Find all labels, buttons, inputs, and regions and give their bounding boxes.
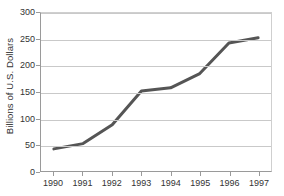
y-tick-mark xyxy=(36,145,40,146)
y-tick-mark xyxy=(36,39,40,40)
x-tick-label: 1992 xyxy=(102,178,122,188)
x-tick-label: 1996 xyxy=(220,178,240,188)
y-tick-mark xyxy=(36,119,40,120)
x-tick-mark xyxy=(141,172,142,176)
x-tick-label: 1997 xyxy=(249,178,269,188)
x-tick-mark xyxy=(112,172,113,176)
x-tick-label: 1991 xyxy=(72,178,92,188)
gridline xyxy=(41,66,271,67)
plot-area xyxy=(40,12,272,172)
y-tick-label: 100 xyxy=(20,114,35,124)
x-tick-mark xyxy=(259,172,260,176)
line-chart: Billions of U.S. Dollars 050100150200250… xyxy=(0,0,284,196)
y-tick-label: 0 xyxy=(30,167,35,177)
x-tick-mark xyxy=(82,172,83,176)
y-tick-label: 250 xyxy=(20,34,35,44)
x-tick-mark xyxy=(200,172,201,176)
gridline xyxy=(41,93,271,94)
gridline xyxy=(41,120,271,121)
y-tick-label: 200 xyxy=(20,60,35,70)
x-tick-label: 1995 xyxy=(190,178,210,188)
y-tick-mark xyxy=(36,12,40,13)
y-tick-label: 150 xyxy=(20,87,35,97)
y-tick-label: 50 xyxy=(25,140,35,150)
gridline xyxy=(41,40,271,41)
x-tick-label: 1994 xyxy=(161,178,181,188)
y-tick-mark xyxy=(36,92,40,93)
x-tick-mark xyxy=(171,172,172,176)
x-tick-mark xyxy=(230,172,231,176)
gridline xyxy=(41,146,271,147)
x-tick-label: 1990 xyxy=(43,178,63,188)
y-axis-tick-labels: 050100150200250300 xyxy=(0,0,38,196)
y-tick-label: 300 xyxy=(20,7,35,17)
x-tick-label: 1993 xyxy=(131,178,151,188)
gridline xyxy=(41,13,271,14)
x-tick-mark xyxy=(53,172,54,176)
y-tick-mark xyxy=(36,65,40,66)
y-tick-mark xyxy=(36,172,40,173)
